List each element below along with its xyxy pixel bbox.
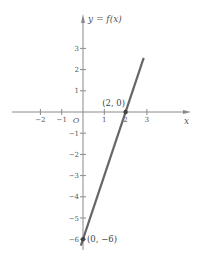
y-tick-label: 3 [75, 45, 79, 53]
y-tick-label: −5 [69, 215, 79, 223]
series [81, 58, 144, 246]
x-tick-label: 1 [102, 116, 106, 124]
point-marker [81, 237, 85, 241]
x-axis-label: x [184, 116, 189, 126]
y-axis-label: y = f(x) [87, 14, 122, 24]
function-graph: −2−1123321−1−2−3−4−5−6 (2, 0)(0, −6) y =… [0, 0, 199, 256]
x-axis-arrow-icon [183, 110, 191, 114]
y-tick-label: 1 [75, 87, 79, 95]
y-tick-label: 2 [75, 66, 79, 74]
x-tick-label: −1 [57, 116, 67, 124]
origin-label: O [73, 116, 80, 125]
y-tick-label: −4 [69, 193, 80, 201]
y-tick-label: −6 [69, 236, 80, 244]
y-tick-label: −3 [69, 172, 79, 180]
x-tick-label: 3 [145, 116, 149, 124]
x-tick-label: −2 [35, 116, 45, 124]
y-axis-arrow-icon [81, 14, 85, 23]
point-marker [123, 110, 127, 114]
axis-labels: y = f(x)xO [73, 14, 189, 126]
y-tick-label: −1 [69, 130, 79, 138]
y-tick-label: −2 [69, 151, 79, 159]
axes [12, 14, 191, 250]
point-label-y-intercept: (0, −6) [87, 234, 117, 244]
function-line [81, 58, 144, 246]
point-label-x-intercept: (2, 0) [102, 98, 125, 108]
